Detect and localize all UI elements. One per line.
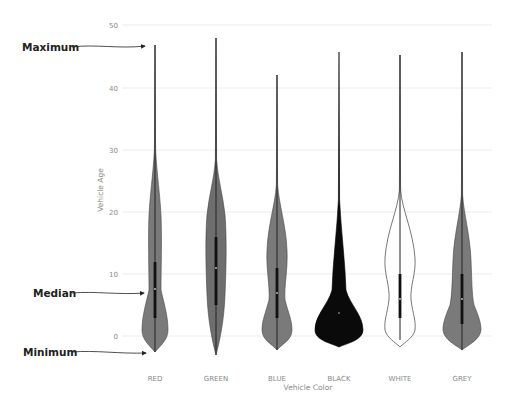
y-tick-10: 10 xyxy=(109,271,118,279)
y-tick-30: 30 xyxy=(109,147,118,155)
violin-grey xyxy=(443,52,481,350)
median-label: Median xyxy=(33,287,76,299)
x-axis-ticks: RED GREEN BLUE BLACK WHITE GREY xyxy=(148,375,473,383)
median-arrow xyxy=(72,292,144,293)
violin-red xyxy=(142,45,168,352)
y-tick-20: 20 xyxy=(109,209,118,217)
violin-black xyxy=(315,52,363,347)
minimum-label: Minimum xyxy=(23,346,78,358)
y-tick-0: 0 xyxy=(114,333,118,341)
violin-chart: 0 10 20 30 40 50 Vehicle Age xyxy=(0,0,512,412)
y-axis-title: Vehicle Age xyxy=(96,168,105,212)
annotation-labels: Maximum Median Minimum xyxy=(22,41,79,358)
maximum-arrow xyxy=(72,46,145,47)
maximum-label: Maximum xyxy=(22,41,79,53)
violin-green xyxy=(206,38,226,355)
x-tick-black: BLACK xyxy=(327,375,350,383)
x-tick-grey: GREY xyxy=(453,375,473,383)
y-tick-50: 50 xyxy=(109,22,118,30)
x-tick-white: WHITE xyxy=(389,375,412,383)
minimum-arrow xyxy=(72,351,146,353)
x-tick-red: RED xyxy=(148,375,163,383)
violin-white xyxy=(385,55,415,347)
gridlines xyxy=(122,25,492,336)
x-tick-green: GREEN xyxy=(204,375,228,383)
x-tick-blue: BLUE xyxy=(268,375,286,383)
y-tick-40: 40 xyxy=(109,85,118,93)
x-axis-title: Vehicle Color xyxy=(284,383,334,392)
